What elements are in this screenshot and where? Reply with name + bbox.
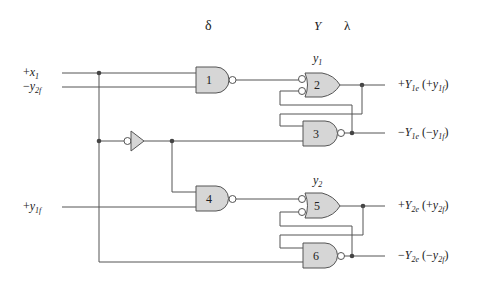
gate-4-label: 4: [206, 192, 212, 206]
output-Y1e-pos-label: +Y1e (+y1f): [398, 78, 448, 93]
gate-1-label: 1: [206, 73, 212, 87]
circuit-wires: 1 2 3 4 5 6: [0, 0, 480, 284]
input-y2f-label: −y2f: [23, 80, 41, 95]
output-Y1e-neg-label: −Y1e (−y1f): [398, 126, 448, 141]
gate-3: [303, 121, 338, 146]
gate-3-label: 3: [313, 127, 319, 141]
gate-2: [305, 73, 340, 97]
circuit-diagram: 1 2 3 4 5 6: [0, 0, 480, 284]
gate-6: [303, 243, 338, 268]
gate-5-label: 5: [314, 199, 320, 213]
inverter-triangle: [131, 131, 144, 151]
junction-inverter-out: [170, 139, 175, 144]
junction-x1: [97, 71, 102, 76]
gate-5: [305, 193, 340, 218]
y1-label: y1: [313, 52, 322, 67]
Y-label: Y: [314, 18, 321, 33]
gate-1: [196, 67, 229, 93]
y2-label: y2: [313, 174, 322, 189]
gate-6-label: 6: [313, 249, 319, 263]
gate-2-label: 2: [314, 78, 320, 92]
delta-label: δ: [205, 19, 212, 33]
junction-inverter: [97, 139, 102, 144]
output-Y2e-pos-label: +Y2e (+y2f): [398, 199, 448, 214]
lambda-label: λ: [344, 19, 350, 32]
output-Y2e-neg-label: −Y2e (−y2f): [398, 249, 448, 264]
inverter-bubble: [124, 138, 131, 145]
gate-4: [196, 186, 228, 211]
input-y1f-label: +y1f: [23, 200, 41, 215]
